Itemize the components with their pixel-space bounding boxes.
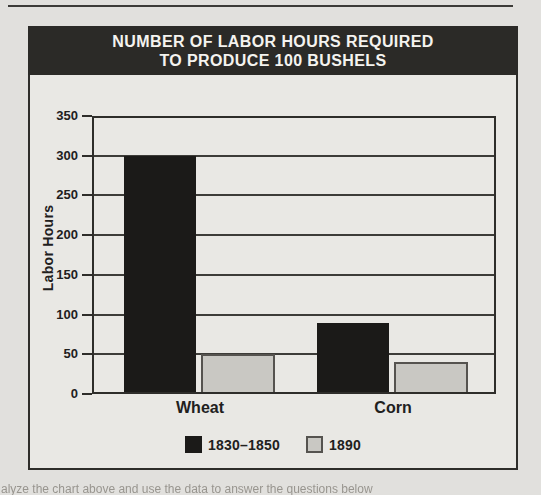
x-axis-label: Wheat bbox=[124, 399, 276, 417]
caption-text: alyze the chart above and use the data t… bbox=[1, 482, 541, 495]
y-axis-tick bbox=[82, 194, 92, 196]
y-axis-tick-label: 300 bbox=[44, 148, 78, 164]
y-axis-tick bbox=[82, 155, 92, 157]
page-top-rule bbox=[8, 5, 513, 7]
y-axis-tick bbox=[82, 353, 92, 355]
y-axis-tick bbox=[82, 115, 92, 117]
y-axis-tick-label: 100 bbox=[44, 307, 78, 323]
chart-title-bar: NUMBER OF LABOR HOURS REQUIRED TO PRODUC… bbox=[28, 26, 518, 75]
legend-item: 1890 bbox=[306, 436, 361, 453]
legend: 1830–18501890 bbox=[28, 436, 518, 453]
chart-title-line-1: NUMBER OF LABOR HOURS REQUIRED bbox=[112, 32, 433, 51]
y-axis-tick bbox=[82, 274, 92, 276]
y-axis-tick bbox=[82, 393, 92, 395]
legend-swatch-dark bbox=[185, 436, 202, 453]
y-axis-tick-label: 50 bbox=[44, 346, 78, 362]
worksheet-page: NUMBER OF LABOR HOURS REQUIRED TO PRODUC… bbox=[0, 0, 541, 495]
y-axis-tick bbox=[82, 314, 92, 316]
legend-item: 1830–1850 bbox=[185, 436, 280, 453]
y-axis-tick-label: 350 bbox=[44, 108, 78, 124]
legend-label: 1890 bbox=[329, 437, 361, 453]
chart-title-line-2: TO PRODUCE 100 BUSHELS bbox=[159, 51, 386, 70]
y-axis-tick-label: 250 bbox=[44, 187, 78, 203]
legend-swatch-light bbox=[306, 436, 323, 453]
bar-wheat-light bbox=[201, 354, 275, 394]
bar-wheat-dark bbox=[124, 156, 196, 394]
bar-corn-dark bbox=[317, 323, 389, 394]
legend-label: 1830–1850 bbox=[208, 437, 280, 453]
y-axis-tick bbox=[82, 234, 92, 236]
y-axis-tick-label: 0 bbox=[44, 386, 78, 402]
x-axis-label: Corn bbox=[317, 399, 469, 417]
bar-corn-light bbox=[394, 362, 468, 394]
y-axis-tick-label: 200 bbox=[44, 227, 78, 243]
y-axis-tick-label: 150 bbox=[44, 267, 78, 283]
